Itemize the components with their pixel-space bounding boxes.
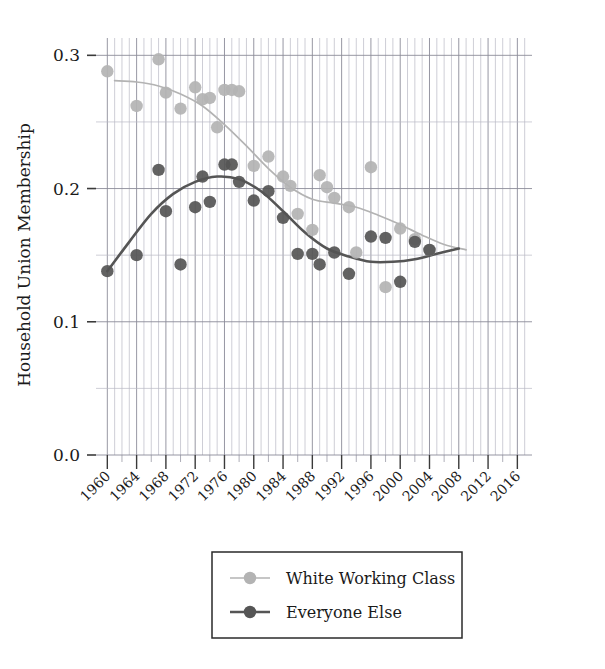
x-tick-label: 1960 [77, 468, 114, 505]
x-tick-label: 1976 [194, 468, 231, 505]
y-axis-title: Household Union Membership [14, 123, 34, 387]
data-point-white-working-class [306, 224, 318, 236]
x-tick-label: 1996 [341, 468, 378, 505]
y-tick-label: 0.0 [53, 445, 80, 465]
legend-point-marker [244, 572, 256, 584]
legend-point-marker [244, 606, 256, 618]
data-point-everyone-else [306, 248, 318, 260]
data-point-everyone-else [174, 258, 186, 270]
chart-figure: 0.00.10.20.3 196019641968197219761980198… [0, 0, 605, 669]
x-tick-label: 1968 [136, 468, 173, 505]
data-point-everyone-else [204, 196, 216, 208]
x-tick-label: 2000 [370, 468, 407, 505]
data-point-everyone-else [379, 232, 391, 244]
data-point-white-working-class [130, 100, 142, 112]
data-point-white-working-class [160, 86, 172, 98]
minor-gridlines [115, 38, 525, 455]
data-point-white-working-class [321, 181, 333, 193]
data-point-everyone-else [313, 258, 325, 270]
data-point-white-working-class [291, 208, 303, 220]
data-point-everyone-else [152, 164, 164, 176]
data-point-everyone-else [394, 276, 406, 288]
data-point-everyone-else [343, 268, 355, 280]
data-point-everyone-else [365, 230, 377, 242]
data-point-everyone-else [409, 236, 421, 248]
data-point-white-working-class [343, 201, 355, 213]
x-tick-label: 1988 [282, 468, 319, 505]
data-point-white-working-class [379, 281, 391, 293]
data-point-everyone-else [226, 158, 238, 170]
data-point-white-working-class [233, 85, 245, 97]
data-point-everyone-else [328, 246, 340, 258]
x-tick-label: 1964 [106, 468, 143, 505]
data-point-white-working-class [174, 102, 186, 114]
data-point-white-working-class [248, 160, 260, 172]
data-point-white-working-class [262, 150, 274, 162]
y-tick-label: 0.1 [53, 312, 80, 332]
x-tick-label: 2016 [487, 468, 524, 505]
x-tick-label: 2004 [399, 468, 436, 505]
legend-label: White Working Class [286, 569, 455, 588]
data-point-everyone-else [262, 185, 274, 197]
data-point-white-working-class [211, 121, 223, 133]
x-tick-label: 1980 [223, 468, 260, 505]
data-point-white-working-class [313, 169, 325, 181]
data-point-everyone-else [160, 205, 172, 217]
data-point-everyone-else [101, 265, 113, 277]
legend-box [212, 552, 462, 638]
data-point-everyone-else [189, 201, 201, 213]
x-tick-label: 1992 [311, 468, 348, 505]
data-point-white-working-class [152, 53, 164, 65]
chart-legend: White Working ClassEveryone Else [212, 552, 462, 638]
data-point-white-working-class [101, 65, 113, 77]
data-point-everyone-else [233, 176, 245, 188]
major-vertical-gridlines [107, 38, 517, 455]
data-point-everyone-else [277, 212, 289, 224]
union-membership-scatter-chart: 0.00.10.20.3 196019641968197219761980198… [0, 0, 605, 669]
x-tick-label: 2012 [458, 468, 495, 505]
y-tick-label: 0.3 [53, 45, 80, 65]
y-tick-label: 0.2 [53, 179, 80, 199]
data-point-everyone-else [248, 194, 260, 206]
data-point-white-working-class [350, 246, 362, 258]
data-point-everyone-else [130, 249, 142, 261]
data-point-white-working-class [284, 180, 296, 192]
data-point-white-working-class [189, 81, 201, 93]
data-point-everyone-else [196, 170, 208, 182]
data-point-white-working-class [328, 192, 340, 204]
x-tick-labels: 1960196419681972197619801984198819921996… [77, 468, 524, 505]
data-point-everyone-else [291, 248, 303, 260]
y-tick-labels: 0.00.10.20.3 [53, 45, 80, 465]
data-point-white-working-class [394, 222, 406, 234]
legend-label: Everyone Else [286, 603, 402, 622]
x-tick-label: 2008 [428, 468, 465, 505]
x-tick-label: 1984 [253, 468, 290, 505]
x-tick-label: 1972 [165, 468, 202, 505]
data-point-white-working-class [365, 161, 377, 173]
data-point-everyone-else [423, 244, 435, 256]
data-point-white-working-class [204, 92, 216, 104]
